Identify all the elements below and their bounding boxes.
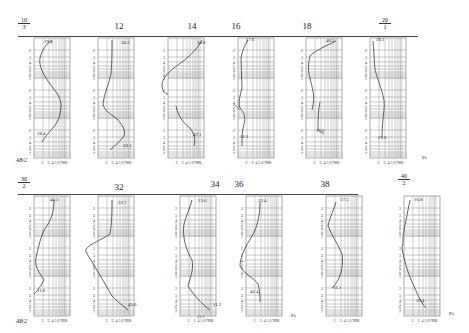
annotation-38-end: 11.1 (333, 285, 341, 290)
annotation-20-end: 21.6 (378, 135, 386, 140)
annotation-30-end: 11.6 (37, 288, 45, 293)
annotation-12-end: 33.1 (123, 143, 131, 148)
annotation-18-end: 17.6 (316, 128, 324, 133)
curve-40 (402, 200, 426, 308)
annotation-34-end: 11.3 (213, 302, 221, 307)
annotation-30-start: 40.2 (50, 197, 58, 202)
panel-36 (240, 196, 282, 323)
annotation-14-end: 47.1 (193, 132, 201, 137)
annotation-34-start: 23.6 (198, 198, 206, 203)
panel-20 (365, 38, 406, 165)
annotation-38-start: 17.5 (340, 197, 348, 202)
annotation-10-end: 28.4 (37, 131, 45, 136)
panel-30 (29, 196, 70, 323)
annotation-10-start: 29.4 (44, 39, 52, 44)
annotation-14-start: 30.8 (197, 40, 205, 45)
annotation-12-start: 30.2 (121, 40, 129, 45)
annotation-20-start: 18.1 (376, 37, 384, 42)
annotation-16-end: 11.3 (240, 134, 248, 139)
plots-canvas: 234 567 81 234 567 81 234 567 234 567 89… (0, 0, 469, 333)
curve-12 (103, 40, 125, 150)
panel-40 (399, 196, 440, 323)
annotation-16-start: 17.6 (246, 37, 254, 42)
annotation-32-end: 45.0 (128, 302, 136, 307)
annotation-36-end: 42.4 (250, 289, 258, 294)
annotation-36-start: 23.4 (258, 198, 266, 203)
annotation-32-start: 23.7 (118, 200, 126, 205)
panel-18 (301, 38, 342, 165)
curve-30 (34, 200, 54, 294)
panel-32 (86, 196, 134, 323)
curve-36 (240, 202, 260, 302)
annotation-40-start: 16.8 (414, 197, 422, 202)
curve-18 (309, 41, 337, 110)
annotation-18-start: 46.5 (326, 38, 334, 43)
panel-14 (162, 38, 204, 165)
panel-38 (321, 196, 362, 323)
annotation-40-end: 29.4 (416, 298, 424, 303)
curve-20 (373, 41, 384, 138)
panel-16 (233, 38, 274, 165)
panel-34 (175, 196, 216, 323)
panel-10 (29, 38, 70, 165)
